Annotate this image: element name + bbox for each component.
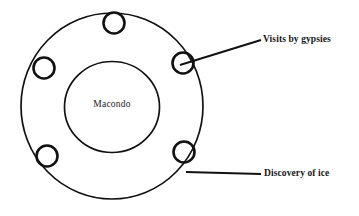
callout-label-discovery-of-ice: Discovery of ice bbox=[264, 169, 329, 179]
event-node-top bbox=[104, 13, 125, 34]
callout-label-visits-by-gypsies: Visits by gypsies bbox=[263, 35, 331, 45]
leader-line-ice bbox=[186, 172, 261, 174]
diagram-canvas: Macondo Visits by gypsies Discovery of i… bbox=[0, 0, 359, 216]
event-node-right bbox=[173, 53, 194, 74]
leader-line-gypsies bbox=[180, 40, 261, 65]
core-label-macondo: Macondo bbox=[0, 100, 224, 110]
event-node-left bbox=[34, 58, 55, 79]
event-node-bottom-left bbox=[37, 146, 58, 167]
